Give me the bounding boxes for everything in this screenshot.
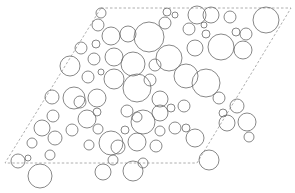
particle-circle bbox=[11, 154, 25, 168]
particle-circle bbox=[187, 40, 203, 56]
particle-circle bbox=[25, 155, 31, 161]
particle-circle bbox=[66, 124, 78, 136]
particle-circle bbox=[208, 34, 234, 60]
particle-circle bbox=[93, 108, 101, 116]
particle-circle bbox=[152, 91, 168, 107]
particle-circle bbox=[93, 124, 103, 134]
particle-circle bbox=[131, 110, 155, 134]
particle-circle bbox=[253, 7, 279, 33]
particle-circle bbox=[92, 19, 104, 31]
particle-circle bbox=[45, 90, 59, 104]
particle-circle bbox=[182, 124, 190, 132]
particle-circle bbox=[48, 131, 62, 145]
particle-circle bbox=[240, 28, 252, 40]
particle-circle bbox=[163, 8, 171, 16]
particle-circle bbox=[224, 11, 236, 23]
circles-group bbox=[11, 6, 279, 188]
particle-circle bbox=[88, 89, 106, 107]
particle-circle bbox=[244, 132, 254, 142]
particle-circle bbox=[238, 113, 256, 131]
particle-circle bbox=[134, 22, 164, 52]
particle-circle bbox=[149, 59, 161, 71]
particle-circle bbox=[213, 92, 225, 104]
particle-circle bbox=[111, 140, 125, 154]
particle-circle bbox=[27, 138, 37, 148]
particle-circle bbox=[102, 27, 120, 45]
particle-circle bbox=[172, 12, 178, 18]
particle-circle bbox=[128, 133, 146, 151]
particle-circle bbox=[203, 7, 219, 23]
particle-circle bbox=[104, 69, 124, 89]
particle-circle bbox=[169, 122, 181, 134]
particle-circle bbox=[92, 40, 100, 48]
particle-circle bbox=[105, 48, 123, 66]
particle-circle bbox=[45, 150, 55, 160]
particle-circle bbox=[34, 120, 50, 136]
particle-circle bbox=[230, 99, 244, 113]
particle-circle bbox=[121, 52, 145, 76]
particle-circle bbox=[159, 17, 171, 29]
particle-circle bbox=[150, 140, 162, 152]
particle-circle bbox=[84, 140, 94, 150]
particle-circle bbox=[88, 53, 100, 65]
particle-circle bbox=[201, 22, 207, 28]
particle-circle bbox=[155, 126, 165, 136]
particle-circle bbox=[95, 164, 111, 180]
particle-circle bbox=[121, 126, 129, 134]
particle-circle bbox=[75, 42, 87, 54]
particle-circle bbox=[63, 87, 85, 109]
particle-circle bbox=[178, 100, 190, 112]
particle-circle bbox=[199, 150, 219, 170]
particle-circle bbox=[121, 105, 133, 117]
particle-circle bbox=[132, 112, 142, 122]
particle-circle bbox=[123, 161, 143, 181]
particle-circle bbox=[183, 23, 195, 35]
circle-packing-diagram bbox=[0, 0, 295, 193]
particle-circle bbox=[167, 104, 175, 112]
particle-circle bbox=[202, 30, 210, 38]
particle-circle bbox=[82, 71, 94, 83]
particle-circle bbox=[174, 64, 198, 88]
particle-circle bbox=[98, 69, 104, 75]
particle-circle bbox=[47, 110, 59, 122]
particle-circle bbox=[234, 41, 252, 59]
particle-circle bbox=[60, 56, 80, 76]
particle-circle bbox=[120, 26, 136, 42]
particle-circle bbox=[152, 105, 168, 121]
particle-circle bbox=[232, 28, 240, 36]
particle-circle bbox=[123, 74, 151, 102]
particle-circle bbox=[28, 164, 52, 188]
particle-circle bbox=[99, 131, 123, 155]
particle-circle bbox=[144, 74, 156, 86]
particle-circle bbox=[108, 155, 118, 165]
particle-circle bbox=[186, 129, 204, 147]
